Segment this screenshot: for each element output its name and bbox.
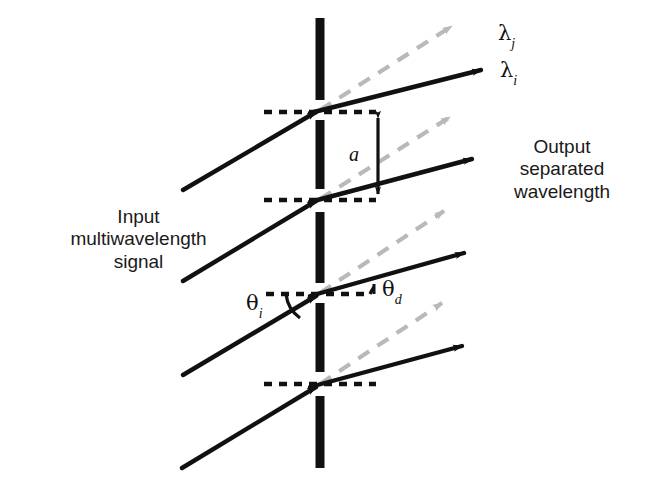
input-signal-label: Input multiwavelength signal bbox=[36, 206, 241, 273]
theta-d-label: θd bbox=[382, 277, 402, 306]
lambda-i-label: λi bbox=[500, 58, 517, 87]
theta-d-subscript: d bbox=[395, 292, 402, 307]
output-ray-2 bbox=[310, 159, 472, 202]
theta-d-symbol: θ bbox=[382, 277, 395, 301]
theta-i-subscript: i bbox=[259, 306, 263, 321]
input-ray-4 bbox=[182, 387, 316, 468]
output-wavelength-label: Output separated wavelength bbox=[478, 136, 646, 203]
ghost-ray-2 bbox=[320, 117, 450, 199]
ghost-ray-1 bbox=[320, 26, 452, 110]
theta-i-label: θi bbox=[246, 291, 263, 320]
input-ray-1 bbox=[183, 112, 316, 190]
lambda-j-subscript: j bbox=[511, 36, 515, 51]
spacing-label: a bbox=[349, 143, 359, 167]
output-ray-1 bbox=[310, 70, 481, 113]
ghost-ray-4 bbox=[320, 303, 442, 384]
lambda-j-symbol: λ bbox=[498, 21, 511, 45]
input-rays bbox=[182, 112, 316, 468]
output-ray-4 bbox=[310, 346, 462, 387]
output-rays bbox=[310, 70, 481, 387]
theta-i-symbol: θ bbox=[246, 291, 259, 315]
ghost-diffracted-rays bbox=[320, 26, 452, 384]
lambda-j-label: λj bbox=[498, 21, 515, 50]
lambda-i-subscript: i bbox=[513, 73, 517, 88]
lambda-i-symbol: λ bbox=[500, 58, 513, 82]
diffraction-grating-figure: Input multiwavelength signal Output sepa… bbox=[0, 0, 651, 501]
